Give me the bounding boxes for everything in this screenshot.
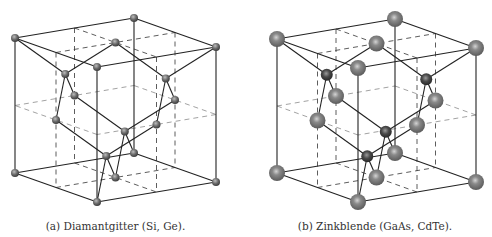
basis-atom: [380, 126, 392, 138]
crystal-structures-figure: [0, 0, 492, 237]
bond: [277, 39, 327, 75]
bond: [116, 43, 166, 79]
bond: [125, 100, 175, 132]
bond: [15, 38, 65, 74]
fcc-atom: [11, 169, 19, 177]
bond: [75, 96, 125, 132]
fcc-atom: [52, 116, 60, 124]
fcc-atom: [310, 113, 326, 129]
bond: [318, 121, 368, 157]
basis-atom: [61, 70, 69, 78]
diamond-lattice-diagram: [11, 14, 220, 206]
bond: [56, 120, 106, 156]
basis-atom: [102, 152, 110, 160]
fcc-atom: [369, 170, 385, 186]
fcc-atom: [409, 117, 425, 133]
cube-edge: [15, 18, 134, 38]
fcc-atom: [112, 39, 120, 47]
fcc-atom: [387, 145, 403, 161]
fcc-atom: [269, 165, 285, 181]
fcc-atom: [112, 174, 120, 182]
fcc-atom: [93, 63, 101, 71]
cube-edge: [15, 173, 97, 202]
fcc-atom: [212, 178, 220, 186]
fcc-atom: [428, 93, 444, 109]
fcc-atom: [153, 121, 161, 129]
zincblende-lattice-diagram: [269, 11, 484, 210]
bond: [336, 96, 386, 132]
basis-atom: [361, 150, 373, 162]
fcc-atom: [93, 198, 101, 206]
fcc-atom: [369, 36, 385, 52]
basis-atom: [162, 75, 170, 83]
basis-atom: [321, 69, 333, 81]
cube-edge: [395, 153, 476, 182]
fcc-atom: [130, 14, 138, 22]
caption-diamond: (a) Diamantgitter (Si, Ge).: [0, 218, 231, 234]
fcc-atom: [269, 31, 285, 47]
caption-zincblende: (b) Zinkblende (GaAs, CdTe).: [252, 218, 492, 234]
cube-edge: [277, 173, 358, 202]
cube-edge: [134, 153, 216, 182]
fcc-atom: [387, 11, 403, 27]
bond: [157, 79, 166, 125]
fcc-atom: [171, 96, 179, 104]
fcc-atom: [328, 88, 344, 104]
fcc-atom: [130, 149, 138, 157]
fcc-atom: [11, 34, 19, 42]
fcc-atom: [468, 40, 484, 56]
basis-atom: [121, 128, 129, 136]
fcc-atom: [71, 92, 79, 100]
fcc-atom: [468, 174, 484, 190]
bond: [377, 44, 427, 80]
cube-edge: [97, 47, 216, 67]
fcc-atom: [350, 194, 366, 210]
fcc-atom: [350, 60, 366, 76]
fcc-atom: [212, 43, 220, 51]
basis-atom: [420, 73, 432, 85]
